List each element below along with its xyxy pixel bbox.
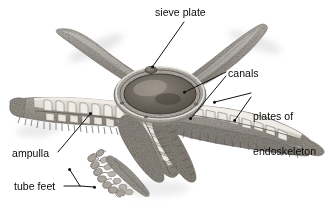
leader-plates-1 — [213, 93, 251, 104]
label-plates-line2: endoskeleton — [253, 146, 316, 158]
label-tube-feet: tube feet — [14, 181, 55, 193]
central-cavity — [124, 74, 196, 114]
label-plates-line1: plates of — [253, 111, 316, 123]
leader-tube-feet-1 — [64, 168, 80, 186]
label-canals: canals — [228, 68, 259, 80]
label-plates-of-endoskeleton: plates of endoskeleton — [253, 88, 316, 180]
label-ampulla: ampulla — [12, 148, 49, 160]
leader-sieve-plate — [151, 22, 184, 69]
label-sieve-plate: sieve plate — [155, 7, 206, 19]
sea-star-anatomy-figure: sieve plate canals plates of endoskeleto… — [0, 0, 331, 214]
leader-tube-feet-2 — [80, 186, 96, 189]
